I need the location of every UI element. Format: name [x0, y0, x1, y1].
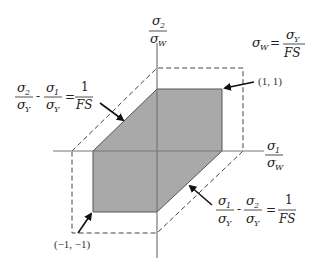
svg-text:FS: FS: [75, 98, 93, 112]
svg-text:1: 1: [285, 193, 293, 207]
svg-text:1: 1: [81, 80, 89, 94]
arrow-upper-left-line: [100, 103, 123, 120]
svg-text:Y: Y: [226, 219, 232, 228]
svg-text:-: -: [36, 89, 40, 103]
svg-text:2: 2: [24, 88, 30, 97]
svg-text:W: W: [158, 39, 167, 48]
failure-envelope-diagram: σ 2 σ W σ 1 σ W σ W = σ Y FS σ 2 σ Y - σ…: [0, 0, 314, 270]
svg-text:1: 1: [54, 88, 59, 97]
x-axis-label: σ 1 σ W: [265, 138, 284, 172]
svg-text:W: W: [275, 163, 284, 172]
svg-text:=: =: [266, 203, 276, 217]
svg-text:2: 2: [253, 201, 259, 210]
svg-text:Y: Y: [25, 105, 31, 114]
svg-text:1: 1: [275, 146, 280, 155]
svg-text:=: =: [65, 90, 75, 104]
svg-text:-: -: [237, 202, 241, 216]
lower-right-line-equation: σ 1 σ Y - σ 2 σ Y = 1 FS: [216, 193, 296, 228]
svg-text:FS: FS: [283, 46, 301, 60]
svg-text:2: 2: [159, 21, 165, 30]
svg-text:=: =: [270, 36, 280, 50]
arrow-point-neg1-neg1: [78, 214, 91, 233]
point-label-1-1: (1, 1): [258, 75, 282, 88]
svg-text:W: W: [260, 43, 269, 52]
svg-text:Y: Y: [294, 35, 300, 44]
arrow-point-1-1: [225, 82, 254, 88]
svg-text:FS: FS: [278, 212, 296, 226]
arrow-lower-right-line: [190, 186, 212, 205]
svg-text:Y: Y: [254, 219, 260, 228]
svg-text:1: 1: [226, 201, 231, 210]
definition-equation: σ W = σ Y FS: [252, 27, 305, 60]
point-label-neg1-neg1: (−1, −1): [54, 238, 91, 251]
y-axis-label: σ 2 σ W: [149, 13, 167, 48]
upper-left-line-equation: σ 2 σ Y - σ 1 σ Y = 1 FS: [15, 80, 93, 114]
svg-text:Y: Y: [54, 105, 60, 114]
